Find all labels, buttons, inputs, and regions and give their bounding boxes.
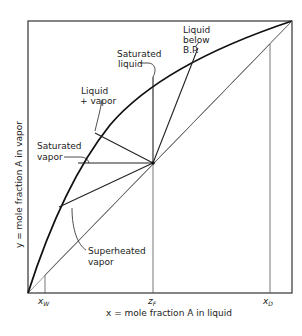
stripping-operating-line bbox=[45, 21, 292, 275]
label-superheated-vapor-line1: Superheated bbox=[88, 246, 146, 256]
label-liquid-below-bp-line3: B.P. bbox=[183, 45, 199, 55]
x-axis-label: x = mole fraction A in liquid bbox=[106, 308, 232, 318]
label-liquid-vapor-line2: + vapor bbox=[80, 96, 116, 106]
q-line-liquid-plus-vapor bbox=[95, 133, 153, 163]
tick-xw: xW bbox=[37, 296, 50, 307]
label-saturated-liquid-line2: liquid bbox=[118, 59, 143, 69]
q-line-liquid-below-bp bbox=[153, 48, 198, 163]
label-saturated-vapor-line2: vapor bbox=[37, 152, 63, 162]
label-superheated-vapor-line2: vapor bbox=[88, 257, 114, 267]
leader-superheated-vapor bbox=[72, 208, 86, 250]
label-saturated-liquid-line1: Saturated bbox=[117, 49, 161, 59]
label-liquid-below-bp-line2: below bbox=[183, 35, 210, 45]
label-saturated-vapor-line1: Saturated bbox=[37, 141, 81, 151]
label-liquid-vapor-line1: Liquid bbox=[81, 86, 108, 96]
y-axis-label: y = mole fraction A in vapor bbox=[14, 121, 24, 248]
tick-xd: xD bbox=[262, 296, 273, 307]
q-line-superheated-vapor bbox=[59, 163, 153, 207]
tick-zf: zF bbox=[147, 296, 157, 307]
label-liquid-below-bp-line1: Liquid bbox=[183, 25, 210, 35]
mccabe-thiele-diagram: Saturated liquid Liquid below B.P. Liqui… bbox=[0, 0, 302, 336]
feed-point bbox=[151, 161, 155, 165]
